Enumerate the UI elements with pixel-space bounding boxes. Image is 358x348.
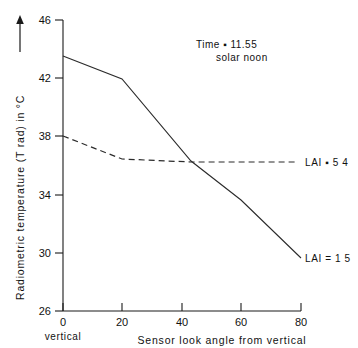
y-tick-label-46: 46 xyxy=(39,14,51,26)
series-line-lai-1-5 xyxy=(63,56,301,258)
y-axis-title: Radiometric temperature (T rad) in °C xyxy=(14,95,26,300)
y-tick-label-30: 30 xyxy=(39,247,51,259)
annotation-solar-noon: solar noon xyxy=(216,52,268,63)
y-tick-label-26: 26 xyxy=(39,305,51,317)
chart-figure: Radiometric temperature (T rad) in °C 46… xyxy=(0,0,358,348)
y-axis-ticks xyxy=(55,20,63,311)
x-tick-label-0: 0 xyxy=(60,316,66,328)
x-tick-label-20: 20 xyxy=(116,316,128,328)
y-tick-label-42: 42 xyxy=(39,72,51,84)
x-origin-sublabel-vertical: vertical xyxy=(45,331,81,342)
annotation-time: Time ▪ 11.55 xyxy=(196,39,257,50)
x-axis-title: Sensor look angle from vertical xyxy=(138,334,307,346)
series-label-lai-5-4: LAI ▪ 5 4 xyxy=(305,157,348,168)
x-axis-ticks xyxy=(63,303,301,311)
y-axis-direction-arrow-icon xyxy=(16,15,24,52)
radiometric-temperature-line-chart: Radiometric temperature (T rad) in °C 46… xyxy=(0,0,358,348)
x-tick-label-80: 80 xyxy=(295,316,307,328)
y-tick-label-34: 34 xyxy=(39,189,51,201)
x-tick-label-40: 40 xyxy=(176,316,188,328)
x-tick-label-60: 60 xyxy=(235,316,247,328)
series-label-lai-1-5: LAI = 1 5 xyxy=(305,253,351,264)
y-tick-label-38: 38 xyxy=(39,130,51,142)
